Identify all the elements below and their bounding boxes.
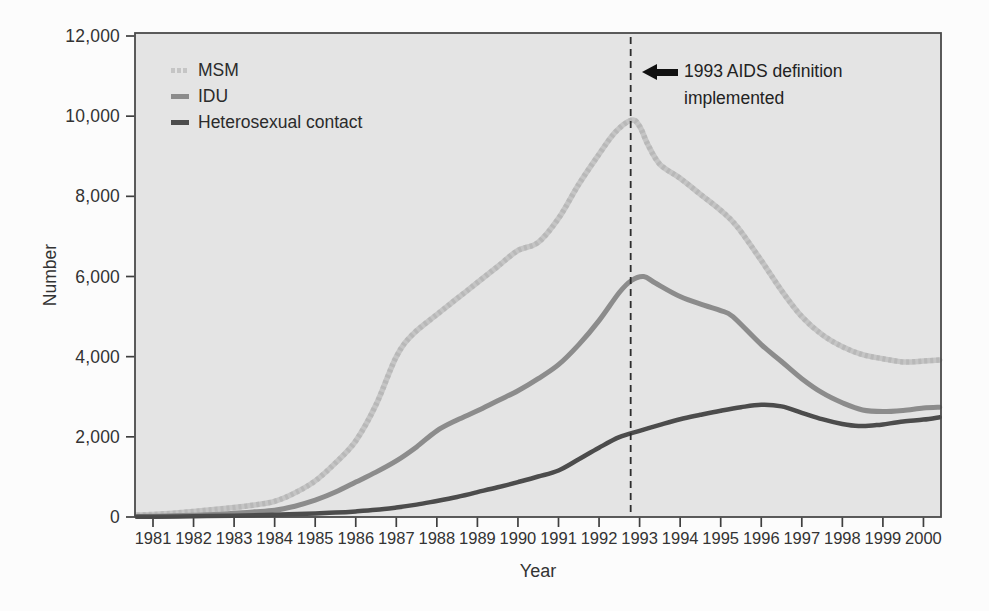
y-tick-label: 6,000 (0, 267, 120, 287)
x-tick-label: 1984 (254, 528, 296, 548)
x-tick-label: 1982 (173, 528, 215, 548)
msm-line-swatch (171, 68, 189, 73)
x-tick-label: 1996 (740, 528, 782, 548)
x-tick-label: 1989 (456, 528, 498, 548)
x-tick-label: 1988 (416, 528, 458, 548)
y-tick-label: 4,000 (0, 347, 120, 367)
annotation-text: 1993 AIDS definition implemented (684, 58, 843, 112)
y-tick-label: 0 (0, 507, 120, 527)
heterosexual-contact-line-swatch (171, 120, 189, 125)
x-tick-label: 2000 (902, 528, 944, 548)
x-tick-label: 1987 (375, 528, 417, 548)
legend-label-msm: MSM (198, 60, 239, 81)
x-tick-label: 1986 (335, 528, 377, 548)
y-tick-label: 2,000 (0, 427, 120, 447)
x-tick-label: 1993 (619, 528, 661, 548)
x-tick-label: 1983 (213, 528, 255, 548)
legend-item-heterosexual-contact: Heterosexual contact (171, 109, 362, 135)
legend-item-msm: MSM (171, 57, 362, 83)
x-tick-label: 1994 (659, 528, 701, 548)
annotation-line-2: implemented (684, 85, 843, 112)
x-tick-label: 1995 (700, 528, 742, 548)
left-arrow-icon (642, 64, 678, 80)
x-tick-label: 1981 (132, 528, 174, 548)
x-tick-label: 1998 (821, 528, 863, 548)
y-tick-label: 10,000 (0, 106, 120, 126)
x-tick-label: 1999 (862, 528, 904, 548)
legend-label-heterosexual-contact: Heterosexual contact (198, 112, 362, 133)
x-tick-label: 1992 (578, 528, 620, 548)
annotation-line-1: 1993 AIDS definition (684, 58, 843, 85)
x-tick-label: 1991 (538, 528, 580, 548)
x-tick-label: 1990 (497, 528, 539, 548)
legend-item-idu: IDU (171, 83, 362, 109)
x-tick-label: 1985 (294, 528, 336, 548)
y-tick-label: 8,000 (0, 186, 120, 206)
x-tick-label: 1997 (781, 528, 823, 548)
x-axis-title: Year (508, 561, 568, 582)
legend: MSM IDU Heterosexual contact (171, 57, 362, 135)
y-tick-label: 12,000 (0, 26, 120, 46)
legend-label-idu: IDU (198, 86, 228, 107)
idu-line-swatch (171, 94, 189, 99)
aids-cases-by-exposure-category-chart: Number 02,0004,0006,0008,00010,00012,000… (0, 0, 989, 611)
